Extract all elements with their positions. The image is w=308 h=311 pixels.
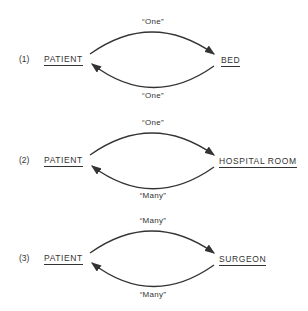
- arc-top-3: [90, 231, 214, 253]
- cardinality-label: “One”: [142, 91, 164, 100]
- diagram-number: (1): [19, 54, 29, 64]
- cardinality-label: “One”: [142, 118, 164, 127]
- cardinality-label: “Many”: [140, 290, 167, 299]
- diagram-number: (2): [19, 155, 29, 165]
- arc-bottom-3: [92, 263, 214, 287]
- entity-patient: PATIENT: [44, 54, 83, 66]
- cardinality-label: “Many”: [140, 191, 167, 200]
- entity-bed: BED: [221, 55, 240, 67]
- entity-hospital-room: HOSPITAL ROOM: [219, 156, 297, 168]
- entity-patient: PATIENT: [44, 253, 83, 265]
- arc-top-1: [90, 32, 214, 54]
- arc-bottom-1: [92, 64, 214, 88]
- arc-top-2: [90, 133, 214, 155]
- entity-patient: PATIENT: [44, 155, 83, 167]
- cardinality-label: “Many”: [140, 216, 167, 225]
- cardinality-label: “One”: [142, 17, 164, 26]
- entity-surgeon: SURGEON: [219, 254, 266, 266]
- arc-bottom-2: [92, 166, 214, 189]
- diagram-number: (3): [19, 253, 29, 263]
